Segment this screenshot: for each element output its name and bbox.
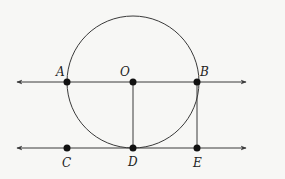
label-C: C (62, 156, 71, 170)
label-B: B (199, 65, 209, 79)
geometry-diagram: A O B C D E (0, 0, 285, 179)
point-D (130, 145, 137, 152)
point-A (64, 79, 71, 86)
label-E: E (192, 156, 202, 170)
point-C (64, 145, 71, 152)
point-E (194, 145, 201, 152)
label-O: O (120, 65, 130, 79)
label-A: A (55, 65, 65, 79)
label-D: D (127, 155, 138, 169)
point-B (194, 79, 201, 86)
point-O (130, 79, 137, 86)
